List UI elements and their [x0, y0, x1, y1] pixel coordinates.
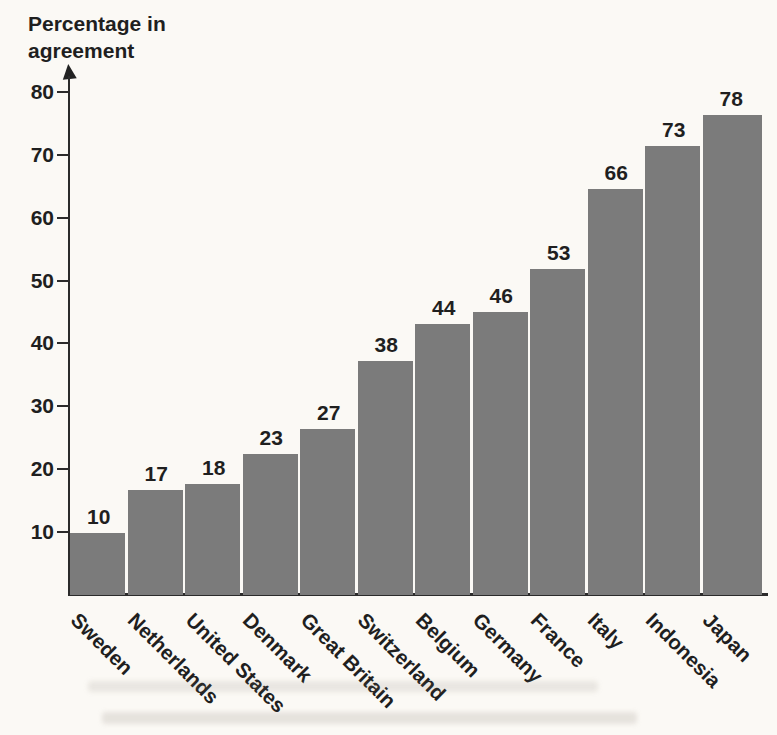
y-tick-label-50: 50: [14, 268, 54, 294]
y-tick-label-70: 70: [14, 142, 54, 168]
value-label-belgium: 44: [412, 295, 476, 321]
y-tick-label-80: 80: [14, 79, 54, 105]
bar-united-states: [185, 484, 240, 595]
value-label-france: 53: [527, 240, 591, 266]
y-tick-40: [57, 342, 69, 344]
x-label-sweden: Sweden: [66, 608, 138, 680]
bar-indonesia: [645, 146, 700, 595]
y-tick-20: [57, 468, 69, 470]
bar-netherlands: [128, 490, 183, 595]
bar-japan: [703, 115, 762, 595]
y-tick-60: [57, 217, 69, 219]
value-label-indonesia: 73: [642, 117, 706, 143]
y-tick-30: [57, 405, 69, 407]
y-tick-label-10: 10: [14, 519, 54, 545]
y-tick-label-20: 20: [14, 456, 54, 482]
bar-switzerland: [358, 361, 413, 595]
bar-sweden: [70, 533, 125, 595]
value-label-japan: 78: [699, 86, 763, 112]
value-label-great-britain: 27: [297, 400, 361, 426]
x-label-italy: Italy: [583, 608, 629, 654]
y-tick-label-60: 60: [14, 205, 54, 231]
bar-denmark: [243, 454, 298, 595]
y-tick-50: [57, 280, 69, 282]
value-label-denmark: 23: [239, 425, 303, 451]
plot-area: 102030405060708010Sweden17Netherlands18U…: [0, 0, 777, 735]
value-label-sweden: 10: [67, 504, 131, 530]
bar-italy: [588, 189, 643, 595]
y-tick-10: [57, 531, 69, 533]
scan-bleedthrough-artifact: [102, 712, 637, 724]
value-label-italy: 66: [584, 160, 648, 186]
x-label-united-states: United States: [181, 608, 291, 718]
bar-france: [530, 269, 585, 595]
y-tick-label-30: 30: [14, 393, 54, 419]
bar-great-britain: [300, 429, 355, 595]
bar-belgium: [415, 324, 470, 595]
value-label-germany: 46: [469, 283, 533, 309]
y-tick-label-40: 40: [14, 330, 54, 356]
y-tick-70: [57, 154, 69, 156]
y-tick-80: [57, 91, 69, 93]
value-label-switzerland: 38: [354, 332, 418, 358]
scan-bleedthrough-artifact: [88, 681, 598, 692]
scanned-bar-chart-figure: Percentage in agreement 1020304050607080…: [0, 0, 777, 735]
value-label-united-states: 18: [182, 455, 246, 481]
value-label-netherlands: 17: [124, 461, 188, 487]
bar-germany: [473, 312, 528, 595]
